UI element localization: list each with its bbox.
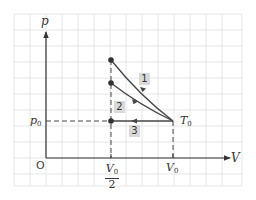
arrow-icon bbox=[131, 119, 137, 124]
v0-label: V0 bbox=[166, 162, 178, 175]
v0-sub: 0 bbox=[174, 167, 178, 175]
p0-main: p bbox=[30, 114, 37, 127]
p0-label: p0 bbox=[30, 115, 42, 128]
process-tag-3: 3 bbox=[129, 125, 140, 137]
state-point-2 bbox=[108, 80, 114, 86]
origin-label-text: O bbox=[36, 159, 45, 172]
process-tag-2: 2 bbox=[114, 101, 125, 113]
p-axis-label: p bbox=[41, 15, 49, 27]
v-axis-label: V bbox=[231, 152, 240, 164]
v0-half-sub: 0 bbox=[114, 168, 118, 176]
state-point-3 bbox=[108, 118, 114, 124]
process-tag-1: 1 bbox=[139, 73, 150, 85]
t0-label: T0 bbox=[180, 115, 192, 128]
arrow-icon bbox=[140, 87, 146, 92]
v-axis-label-text: V bbox=[231, 151, 240, 165]
p-axis-label-text: p bbox=[41, 14, 49, 28]
v0-half-main: V bbox=[106, 162, 114, 175]
state-point-1 bbox=[108, 57, 114, 63]
v0-main: V bbox=[166, 161, 174, 174]
t0-sub: 0 bbox=[187, 120, 191, 128]
v0-half-denominator: 2 bbox=[102, 179, 122, 190]
grid bbox=[14, 14, 242, 186]
v0-half-label: V0 2 bbox=[102, 162, 122, 190]
origin-label: O bbox=[36, 159, 45, 172]
v0-half-numerator: V0 bbox=[105, 163, 119, 179]
p0-sub: 0 bbox=[37, 120, 41, 128]
